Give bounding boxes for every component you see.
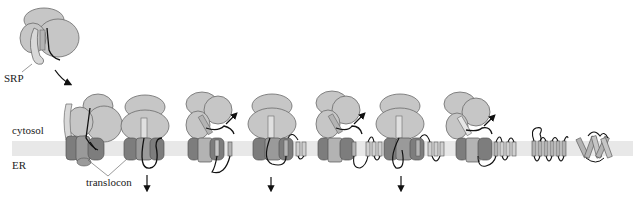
diagram-canvas: SRP cytosol ER translocon <box>0 0 635 205</box>
label-srp: SRP <box>4 72 24 84</box>
stage-10-folded-bundle <box>576 132 612 162</box>
translocation-diagram <box>0 0 635 205</box>
translocon-pointer <box>88 158 128 176</box>
stage-7 <box>376 94 444 190</box>
label-er: ER <box>12 159 26 171</box>
stage-6 <box>316 91 382 168</box>
label-cytosol: cytosol <box>12 124 44 136</box>
arrow-srp-to-translocon <box>55 70 70 84</box>
stage-4 <box>186 92 236 173</box>
stage-1-srp-ribosome <box>20 8 79 72</box>
label-translocon: translocon <box>86 176 132 188</box>
stage-5 <box>248 94 306 190</box>
